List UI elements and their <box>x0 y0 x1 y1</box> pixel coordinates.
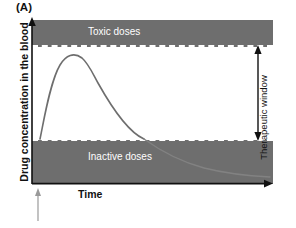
x-axis-label: Time <box>78 188 102 200</box>
y-axis-label: Drug concentration in the blood <box>18 17 30 187</box>
inactive-doses-label: Inactive doses <box>88 151 152 162</box>
concentration-curve <box>32 20 273 184</box>
therapeutic-window-label: Therapeutic window <box>258 54 269 182</box>
panel-letter: (A) <box>16 1 32 13</box>
plot-area: Toxic doses Inactive doses <box>32 20 273 184</box>
toxic-doses-label: Toxic doses <box>88 26 140 37</box>
dose-administration-arrow <box>35 188 41 221</box>
figure-panel-a: (A) Drug concentration in the blood Toxi… <box>0 0 296 228</box>
